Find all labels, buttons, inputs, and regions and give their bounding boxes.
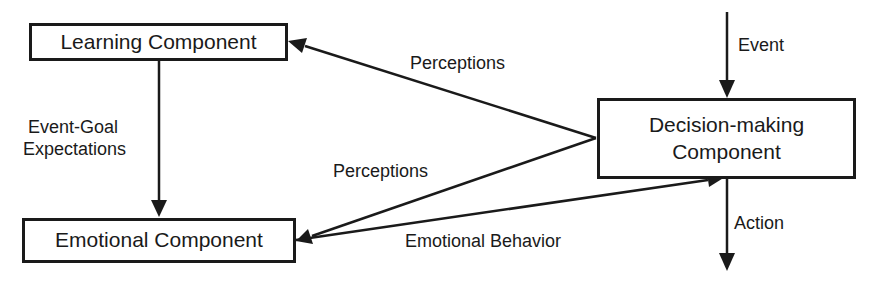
- expectations-arrow: [151, 60, 167, 217]
- perceptions-to-learning-label: Perceptions: [410, 53, 505, 75]
- perceptions-to-emotional-label: Perceptions: [333, 161, 428, 183]
- learning-component-label: Learning Component: [60, 29, 256, 55]
- event-label: Event: [738, 35, 784, 57]
- expectations-label-line2: Expectations: [23, 139, 126, 161]
- perceptions-to-emotional-arrow: [296, 138, 596, 244]
- emotional-component-label: Emotional Component: [55, 227, 263, 253]
- learning-component-node: Learning Component: [29, 23, 288, 61]
- decision-label-line2: Component: [672, 139, 781, 165]
- emotional-behavior-label: Emotional Behavior: [405, 231, 561, 253]
- decision-making-component-node: Decision-making Component: [597, 98, 856, 179]
- action-arrow: [719, 178, 735, 271]
- action-label: Action: [734, 213, 784, 235]
- decision-label-line1: Decision-making: [649, 112, 804, 138]
- emotional-component-node: Emotional Component: [22, 218, 296, 263]
- event-goal-expectations-label: Event-Goal Expectations: [28, 117, 126, 160]
- expectations-label-line1: Event-Goal: [28, 117, 126, 139]
- event-arrow: [719, 12, 735, 98]
